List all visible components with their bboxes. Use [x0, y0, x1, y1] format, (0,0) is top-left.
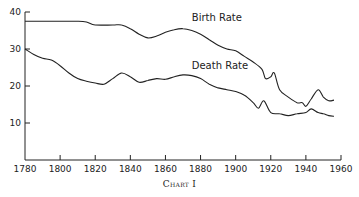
x-tick-label: 1840 — [119, 164, 142, 174]
x-tick-label: 1960 — [330, 164, 353, 174]
y-tick-label: 30 — [10, 44, 22, 54]
y-tick-label: 20 — [10, 81, 22, 91]
chart-caption: Chart I — [0, 179, 359, 189]
x-tick-label: 1780 — [14, 164, 37, 174]
birth-rate-label: Birth Rate — [192, 12, 242, 23]
series-group — [25, 21, 334, 116]
x-tick-label: 1920 — [259, 164, 282, 174]
y-tick-label: 40 — [10, 7, 22, 17]
x-tick-label: 1880 — [189, 164, 212, 174]
x-tick-label: 1940 — [294, 164, 317, 174]
x-tick-label: 1900 — [224, 164, 247, 174]
death-rate-line — [25, 49, 334, 116]
x-tick-label: 1800 — [49, 164, 72, 174]
x-tick-label: 1820 — [84, 164, 107, 174]
birth-rate-line — [25, 21, 334, 106]
y-tick-label: 10 — [10, 118, 22, 128]
death-rate-label: Death Rate — [192, 60, 248, 71]
series-labels: Birth RateDeath Rate — [192, 12, 248, 71]
axes: 1020304017801800182018401860188019001920… — [10, 7, 353, 174]
line-chart: 1020304017801800182018401860188019001920… — [0, 0, 359, 197]
x-tick-label: 1860 — [154, 164, 177, 174]
